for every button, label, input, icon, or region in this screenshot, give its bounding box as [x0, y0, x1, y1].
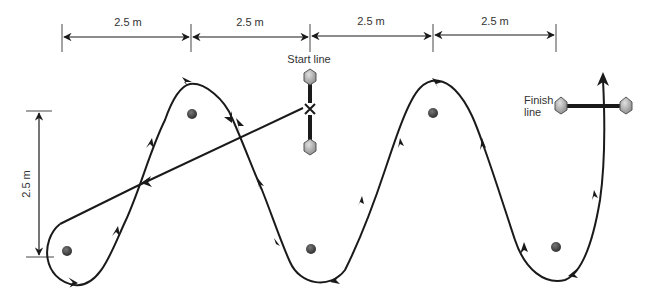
arrow-icon: [592, 190, 598, 200]
cone-icon: [428, 108, 438, 118]
finish-post-right-icon: [620, 97, 632, 114]
weave-path: [47, 80, 604, 285]
finish-line-label-1: Finish: [524, 94, 553, 106]
finish-line-label-2: line: [524, 106, 541, 118]
arrow-icon: [274, 238, 280, 250]
course-path: [47, 80, 604, 285]
slalom-course-diagram: 2.5 m 2.5 m 2.5 m 2.5 m 2.5 m Start line…: [0, 0, 657, 304]
arrow-icon: [330, 274, 340, 284]
start-post-top-icon: [304, 69, 316, 85]
start-post-bottom-icon: [304, 139, 316, 155]
start-approach-line: [60, 108, 303, 224]
arrow-icon: [398, 138, 404, 148]
arrow-icon: [520, 242, 528, 254]
dimension-label-4: 2.5 m: [481, 15, 509, 27]
arrow-icon: [432, 78, 442, 88]
dimension-label-2: 2.5 m: [236, 16, 264, 28]
cone-icon: [187, 109, 197, 119]
course-drawing: [0, 0, 657, 304]
start-line: [304, 69, 316, 155]
horizontal-dimensions: [62, 24, 556, 52]
arrow-icon: [146, 138, 154, 148]
arrow-icon: [224, 111, 232, 123]
cone-icon: [551, 242, 561, 252]
dimension-label-1: 2.5 m: [114, 16, 142, 28]
cone-icon: [62, 246, 72, 256]
arrow-icon: [112, 226, 120, 236]
finish-post-left-icon: [555, 97, 567, 114]
finish-line: [555, 97, 632, 114]
dimension-label-3: 2.5 m: [357, 15, 385, 27]
start-line-label: Start line: [287, 53, 330, 65]
vertical-dimension-label: 2.5 m: [20, 170, 32, 198]
cone-icon: [306, 244, 316, 254]
arrow-icon: [358, 196, 364, 206]
